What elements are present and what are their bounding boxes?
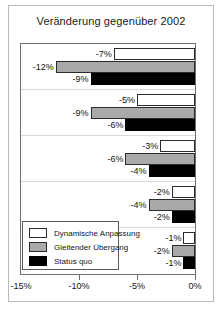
x-axis-label: -15% <box>10 281 31 291</box>
bar-value-label: -6% <box>107 120 123 130</box>
chart-figure: Veränderung gegenüber 2002 -7%-12%-9%-5%… <box>0 0 222 311</box>
bar-value-label: -4% <box>131 200 147 210</box>
bar-row: -3% <box>21 140 195 152</box>
legend-item: Gleitender Übergang <box>29 241 128 253</box>
x-axis-ticks <box>20 275 196 280</box>
bar-row: -2% <box>21 186 195 198</box>
x-axis-tick <box>195 275 196 280</box>
legend-label: Gleitender Übergang <box>54 243 128 252</box>
legend-label: Dynamische Anpassung <box>54 229 140 238</box>
bar-value-label: -9% <box>73 108 89 118</box>
bar-dynamische-anpassung <box>172 186 195 198</box>
bar-status-quo <box>183 257 195 269</box>
bar-status-quo <box>125 119 195 131</box>
bar-gleitender-bergang <box>149 199 195 211</box>
bar-status-quo <box>172 211 195 223</box>
bar-value-label: -1% <box>165 233 181 243</box>
legend-item: Status quo <box>29 255 92 267</box>
bar-row: -4% <box>21 165 195 177</box>
legend-swatch-icon <box>29 242 47 252</box>
x-axis-tick <box>137 275 138 280</box>
bar-value-label: -2% <box>154 246 170 256</box>
bar-value-label: -4% <box>131 166 147 176</box>
bar-row: -12% <box>21 61 195 73</box>
bar-group: -5%-9%-6% <box>21 90 195 136</box>
bar-row: -5% <box>21 94 195 106</box>
chart-title: Veränderung gegenüber 2002 <box>8 15 214 27</box>
bar-row: -9% <box>21 73 195 85</box>
bar-value-label: -3% <box>142 141 158 151</box>
bar-dynamische-anpassung <box>137 94 195 106</box>
bar-gleitender-bergang <box>125 153 195 165</box>
bar-group: -3%-6%-4% <box>21 136 195 182</box>
x-axis-tick <box>79 275 80 280</box>
bar-group: -7%-12%-9% <box>21 44 195 90</box>
bar-value-label: -5% <box>119 95 135 105</box>
legend-label: Status quo <box>54 257 92 266</box>
bar-dynamische-anpassung <box>160 140 195 152</box>
chart-legend: Dynamische AnpassungGleitender ÜbergangS… <box>22 221 119 270</box>
x-axis-labels: -15%-10%-5%0% <box>0 281 222 295</box>
bar-value-label: -9% <box>73 74 89 84</box>
bar-dynamische-anpassung <box>183 232 195 244</box>
bar-value-label: -6% <box>107 154 123 164</box>
bar-status-quo <box>91 73 195 85</box>
bar-value-label: -1% <box>165 258 181 268</box>
bar-row: -9% <box>21 107 195 119</box>
legend-item: Dynamische Anpassung <box>29 227 140 239</box>
bar-value-label: -2% <box>154 187 170 197</box>
x-axis-label: 0% <box>188 281 201 291</box>
bar-row: -6% <box>21 119 195 131</box>
bar-gleitender-bergang <box>56 61 195 73</box>
bar-gleitender-bergang <box>172 245 195 257</box>
bar-gleitender-bergang <box>91 107 195 119</box>
x-axis-label: -10% <box>68 281 89 291</box>
legend-swatch-icon <box>29 256 47 266</box>
x-axis-label: -5% <box>129 281 145 291</box>
legend-swatch-icon <box>29 228 47 238</box>
bar-status-quo <box>149 165 195 177</box>
bar-row: -4% <box>21 199 195 211</box>
bar-row: -6% <box>21 153 195 165</box>
bar-value-label: -12% <box>33 62 54 72</box>
bar-dynamische-anpassung <box>114 48 195 60</box>
bar-value-label: -2% <box>154 212 170 222</box>
bar-value-label: -7% <box>96 49 112 59</box>
bar-row: -7% <box>21 48 195 60</box>
